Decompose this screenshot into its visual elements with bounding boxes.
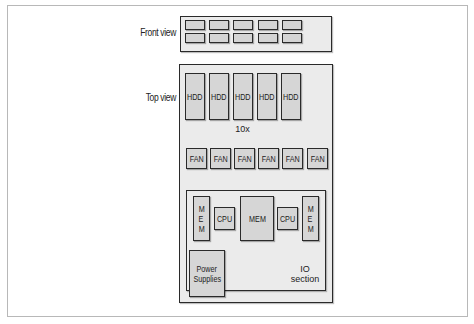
- memory-center: MEM: [240, 196, 274, 241]
- front-drive-slot: [185, 20, 205, 30]
- io-section-label: IO section: [290, 264, 320, 284]
- fan-3: FAN: [234, 148, 255, 169]
- fan-1: FAN: [186, 148, 207, 169]
- front-drive-slot: [209, 33, 229, 43]
- front-drive-slot: [233, 20, 253, 30]
- memory-left: M E M: [193, 196, 210, 241]
- front-view-label: Front view: [127, 27, 176, 38]
- fan-2: FAN: [210, 148, 231, 169]
- top-view-label: Top view: [127, 92, 176, 103]
- fan-6: FAN: [307, 148, 328, 169]
- io-label-line1: IO: [290, 264, 320, 274]
- hdd-3: HDD: [233, 73, 253, 120]
- hdd-5: HDD: [281, 73, 301, 120]
- fan-5: FAN: [282, 148, 303, 169]
- front-drive-slot: [258, 33, 278, 43]
- front-drive-slot: [209, 20, 229, 30]
- hdd-4: HDD: [257, 73, 277, 120]
- memory-right: M E M: [302, 196, 319, 241]
- cpu-left: CPU: [214, 207, 235, 230]
- front-drive-slot: [258, 20, 278, 30]
- cpu-right: CPU: [277, 207, 298, 230]
- hdd-2: HDD: [209, 73, 229, 120]
- front-drive-slot: [282, 20, 302, 30]
- io-label-line2: section: [290, 274, 320, 284]
- front-drive-slot: [282, 33, 302, 43]
- hdd-multiplier-label: 10x: [230, 124, 255, 134]
- fan-4: FAN: [258, 148, 279, 169]
- power-supplies: Power Supplies: [189, 250, 225, 297]
- front-drive-slot: [185, 33, 205, 43]
- hdd-1: HDD: [185, 73, 205, 120]
- front-drive-slot: [233, 33, 253, 43]
